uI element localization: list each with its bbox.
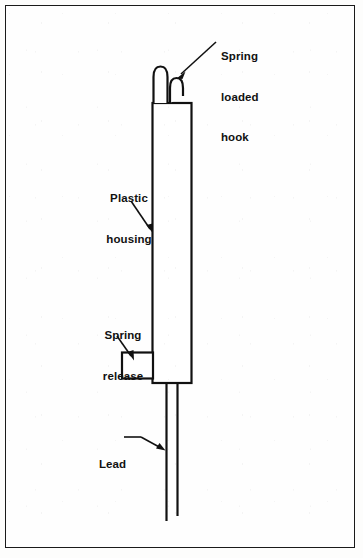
label-spring-loaded-hook-line3: hook xyxy=(221,131,259,145)
label-plastic-housing-line2: housing xyxy=(96,233,162,247)
figure-page: Spring loaded hook Plastic housing Sprin… xyxy=(0,0,363,558)
arrow-head-lead xyxy=(156,443,166,451)
hook-outer-prong xyxy=(154,67,168,104)
label-spring-loaded-hook: Spring loaded hook xyxy=(221,23,259,172)
hook-inner-prong xyxy=(170,78,183,103)
label-spring-release-line1: Spring xyxy=(92,329,154,343)
label-plastic-housing: Plastic housing xyxy=(96,165,162,273)
label-spring-release-line2: release xyxy=(92,370,154,384)
label-spring-loaded-hook-line2: loaded xyxy=(221,91,259,105)
diagram-drawing xyxy=(0,0,363,558)
label-lead-line1: Lead xyxy=(99,458,126,472)
label-spring-loaded-hook-line1: Spring xyxy=(221,50,259,64)
arrow-line-spring-loaded-hook xyxy=(181,42,216,74)
label-spring-release: Spring release xyxy=(92,302,154,410)
label-lead: Lead xyxy=(99,431,126,499)
arrow-head-spring-loaded-hook xyxy=(177,72,186,80)
label-plastic-housing-line1: Plastic xyxy=(96,192,162,206)
